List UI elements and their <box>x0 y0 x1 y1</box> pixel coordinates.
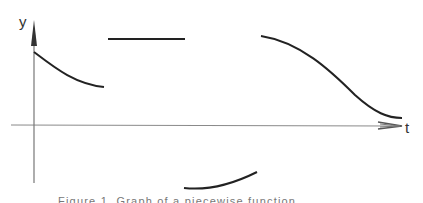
y-axis-arrow-icon <box>31 20 37 46</box>
y-axis-label: y <box>19 14 27 29</box>
curve-segment-3 <box>184 172 257 189</box>
t-axis-label: t <box>405 120 409 135</box>
graph-canvas <box>0 0 423 203</box>
curve-segment-4 <box>261 36 402 118</box>
function-graph-figure: y t Figure 1. Graph of a piecewise funct… <box>0 0 423 203</box>
figure-caption: Figure 1. Graph of a piecewise function <box>58 196 378 203</box>
t-axis <box>11 125 392 126</box>
curve-segment-1 <box>34 52 104 87</box>
